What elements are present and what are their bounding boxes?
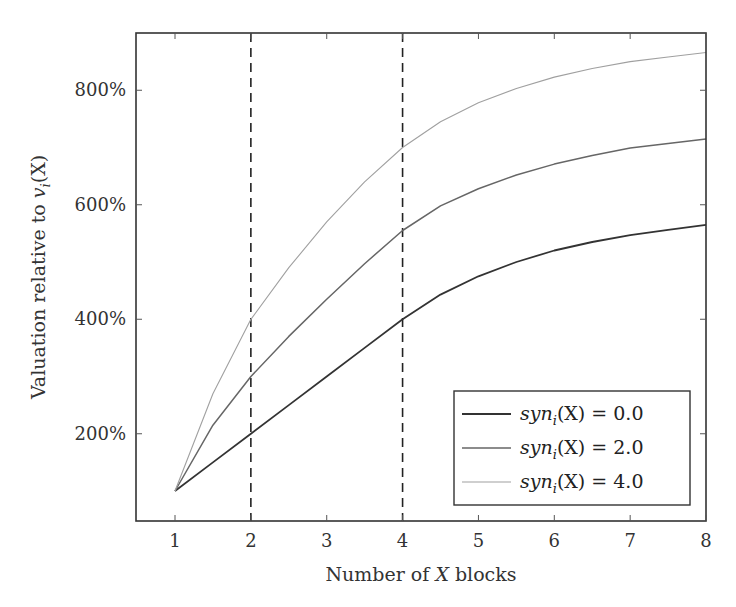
x-tick-label: 3 xyxy=(321,530,332,551)
y-tick-label: 200% xyxy=(75,423,126,444)
x-tick-label: 4 xyxy=(397,530,408,551)
y-tick-label: 800% xyxy=(75,79,126,100)
y-tick-labels: 200%400%600%800% xyxy=(75,79,126,444)
x-tick-label: 8 xyxy=(700,530,711,551)
y-axis-label: Valuation relative to vi(X) xyxy=(27,155,53,400)
x-tick-label: 7 xyxy=(624,530,635,551)
x-tick-labels: 12345678 xyxy=(169,530,711,551)
x-tick-label: 6 xyxy=(549,530,560,551)
line-chart: 12345678 200%400%600%800% Number of X bl… xyxy=(0,0,736,607)
x-tick-label: 1 xyxy=(169,530,180,551)
x-tick-label: 5 xyxy=(473,530,484,551)
x-tick-label: 2 xyxy=(245,530,256,551)
legend: syni(X) = 0.0syni(X) = 2.0syni(X) = 4.0 xyxy=(454,391,690,505)
y-tick-label: 400% xyxy=(75,308,126,329)
reference-dashed-lines xyxy=(251,33,403,521)
x-axis-label: Number of X blocks xyxy=(325,563,516,585)
y-tick-label: 600% xyxy=(75,194,126,215)
